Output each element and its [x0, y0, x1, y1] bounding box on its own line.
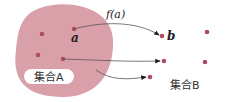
set-a-label: 集合A [34, 70, 64, 84]
point-b3 [162, 59, 167, 64]
function-label: f(a) [105, 8, 125, 21]
point-b2 [205, 30, 210, 35]
point-a2 [40, 32, 45, 37]
set-b-label: 集合B [170, 78, 200, 92]
element-a-label: a [71, 31, 79, 45]
point-b4 [203, 60, 208, 65]
point-a3 [36, 53, 41, 58]
point-b [160, 34, 165, 39]
point-b5 [148, 75, 153, 80]
mapping-diagram: f(a) a b 集合A 集合B [0, 0, 233, 102]
element-b-label: b [167, 29, 175, 43]
